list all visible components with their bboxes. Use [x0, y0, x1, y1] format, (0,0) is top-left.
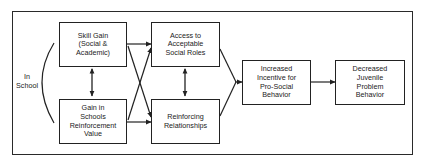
label-line: School [13, 82, 41, 91]
node-text: Behavior [257, 91, 296, 100]
node-text: Social Roles [166, 49, 206, 58]
in-school-bracket [42, 43, 54, 123]
node-text: Relationships [164, 122, 207, 131]
in-school-label: In School [13, 73, 41, 90]
node-outcome: Decreased Juvenile Problem Behavior [335, 60, 405, 105]
node-skill-gain: Skill Gain (Social & Academic) [59, 22, 127, 67]
arrow-relationships-incentive [220, 82, 236, 116]
arrow-reinforcement-roles [128, 48, 151, 120]
diagram-canvas: In School Skill Gain (Social & Academic)… [0, 0, 422, 168]
node-school-reinforcement: Gain in Schools Reinforcement Value [59, 99, 127, 144]
arrow-skill-relationships [128, 46, 151, 117]
node-text: Value [70, 130, 117, 139]
node-text: Behavior [353, 91, 388, 100]
node-incentive: Increased Incentive for Pro-Social Behav… [242, 60, 311, 105]
node-reinforcing-relationships: Reinforcing Relationships [151, 99, 220, 144]
arrow-roles-incentive [220, 49, 236, 82]
node-text: Academic) [76, 49, 110, 58]
node-social-roles: Access to Acceptable Social Roles [151, 22, 220, 67]
